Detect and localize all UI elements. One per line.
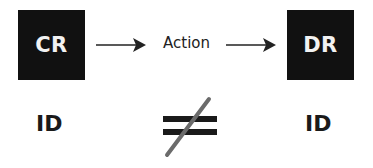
arrow-right-icon xyxy=(96,38,146,52)
arrow-right-icon xyxy=(226,38,276,52)
id-left-label: ID xyxy=(36,111,62,136)
not-equal-icon xyxy=(163,99,217,155)
arrows-and-not-equal xyxy=(0,0,373,168)
id-right-label: ID xyxy=(305,111,331,136)
